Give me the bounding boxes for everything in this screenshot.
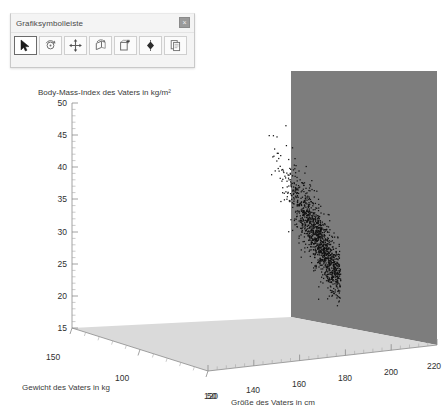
y-tick-label: 20 — [58, 291, 68, 301]
y-tick-label: 35 — [58, 194, 68, 204]
x-tick-label: 140 — [246, 385, 260, 395]
copy-tool[interactable] — [164, 36, 187, 55]
spin-icon — [94, 39, 107, 52]
y-tick-label: 25 — [58, 259, 68, 269]
x-tick-label: 200 — [384, 367, 398, 377]
rotate-tool[interactable] — [39, 36, 62, 55]
y-axis-ticks — [72, 103, 78, 328]
y-tick-label: 15 — [58, 323, 68, 333]
y-tick-label: 30 — [58, 227, 68, 237]
palette-title: Grafiksymbolleiste — [16, 19, 83, 28]
add-box-icon — [119, 39, 132, 52]
y-tick-label: 50 — [58, 98, 68, 108]
z-tick-label: 100 — [115, 373, 129, 383]
y-axis-title: Body-Mass-Index des Vaters in kg/m² — [38, 88, 171, 97]
rotate-icon — [44, 39, 57, 52]
x-tick-label: 180 — [338, 373, 352, 383]
z-tick-label: 150 — [46, 352, 60, 362]
close-icon[interactable]: × — [179, 17, 190, 28]
graphics-toolbar-palette[interactable]: Grafiksymbolleiste × — [10, 13, 195, 68]
z-axis-title: Gewicht des Vaters in kg — [22, 383, 110, 392]
diamond-icon — [144, 39, 157, 52]
select-pointer-tool[interactable] — [14, 36, 37, 55]
copy-icon — [169, 39, 182, 52]
add-frame-tool[interactable] — [114, 36, 137, 55]
x-tick-label: 220 — [427, 361, 441, 371]
pointer-icon — [20, 39, 31, 52]
y-tick-label: 40 — [58, 162, 68, 172]
move-arrows-icon — [69, 39, 82, 52]
y-tick-label: 45 — [58, 130, 68, 140]
palette-titlebar[interactable]: Grafiksymbolleiste × — [11, 14, 194, 33]
palette-button-row — [11, 33, 194, 55]
spin-tool[interactable] — [89, 36, 112, 55]
x-axis-title: Größe des Vaters in cm — [231, 398, 315, 407]
x-tick-label: 160 — [292, 379, 306, 389]
x-tick-label: 120 — [204, 391, 218, 401]
orbit-tool[interactable] — [139, 36, 162, 55]
move-tool[interactable] — [64, 36, 87, 55]
y-axis-minor-ticks — [72, 109, 76, 321]
back-wall-panel — [291, 71, 437, 345]
